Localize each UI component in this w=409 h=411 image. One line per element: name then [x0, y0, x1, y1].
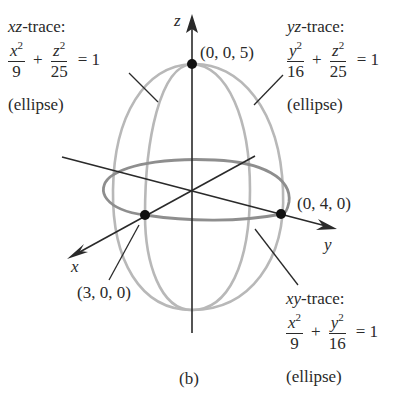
xz-trace-equation: x29 + z225 = 1	[6, 40, 106, 81]
yz-trace-equation: y216 + z225 = 1	[285, 40, 385, 81]
point-0-0-5	[187, 59, 197, 69]
point-label-3-0-0: (3, 0, 0)	[77, 284, 131, 301]
point-label-0-4-0: (0, 4, 0)	[297, 195, 351, 212]
xy-trace-title: xy-trace:	[286, 290, 345, 307]
xy-trace-ellipse	[103, 160, 289, 221]
xz-trace-title: xz-trace:	[8, 18, 66, 35]
point-0-4-0	[276, 209, 286, 219]
yz-trace-title: yz-trace:	[287, 18, 345, 35]
point-label-0-0-5: (0, 0, 5)	[200, 44, 254, 61]
point-3-0-0	[140, 210, 150, 220]
yz-leader-line	[254, 75, 283, 105]
y-axis-label: y	[324, 236, 332, 253]
xz-trace-kind: (ellipse)	[8, 96, 64, 113]
y-axis	[62, 157, 326, 226]
x-axis	[76, 156, 255, 254]
xy-trace-equation: x29 + y216 = 1	[284, 312, 384, 353]
x-axis-label: x	[71, 258, 79, 275]
z-axis-label: z	[174, 12, 181, 29]
figure-caption: (b)	[179, 370, 199, 387]
xy-trace-kind: (ellipse)	[286, 368, 342, 385]
yz-trace-kind: (ellipse)	[287, 96, 343, 113]
